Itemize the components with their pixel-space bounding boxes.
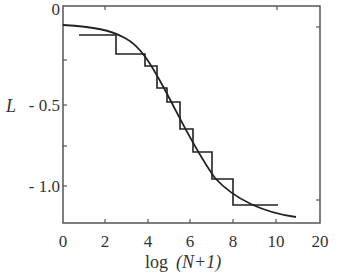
y-tick-label: - 0.5	[29, 96, 60, 115]
y-tick-label: - 1.0	[29, 177, 60, 196]
step-function	[79, 35, 278, 205]
x-tick-label: 0	[59, 232, 68, 251]
chart: 0 2 4 6 8 10 20 0 - 0.5 - 1.0 L log (N+1…	[0, 0, 338, 276]
y-tick-labels: 0 - 0.5 - 1.0	[29, 0, 60, 196]
x-ticks	[105, 6, 277, 223]
x-tick-label: 8	[229, 232, 238, 251]
x-tick-label: 4	[144, 232, 153, 251]
x-tick-label: 10	[268, 232, 285, 251]
y-ticks	[63, 27, 320, 200]
plot-frame	[63, 6, 320, 223]
x-axis-label-main: log	[145, 252, 168, 272]
x-axis-label-paren: (N+1)	[176, 252, 221, 273]
y-tick-label: 0	[52, 0, 61, 19]
x-tick-label: 6	[186, 232, 195, 251]
x-tick-labels: 0 2 4 6 8 10 20	[59, 232, 329, 251]
x-tick-label: 2	[101, 232, 110, 251]
x-tick-label: 20	[312, 232, 329, 251]
y-axis-label: L	[5, 96, 16, 116]
